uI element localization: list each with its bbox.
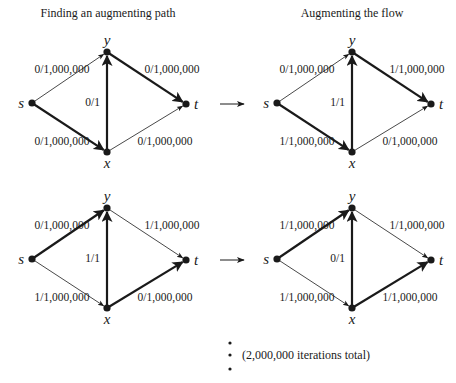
node-s xyxy=(28,255,35,262)
edge-yt-augmenting xyxy=(107,52,183,102)
node-label-s: s xyxy=(18,95,24,111)
title-augmenting-flow: Augmenting the flow xyxy=(301,6,404,20)
node-label-y: y xyxy=(347,32,356,48)
flow-diagram-bottom-right: 1/1,000,0001/1,000,0000/11/1,000,0001/1,… xyxy=(263,188,445,327)
node-label-x: x xyxy=(348,155,356,171)
node-label-x: x xyxy=(348,311,356,327)
edge-label-xy: 0/1 xyxy=(85,96,100,108)
node-label-t: t xyxy=(194,252,199,268)
node-t xyxy=(427,256,434,263)
node-label-y: y xyxy=(102,188,111,204)
edge-label-sy: 0/1,000,000 xyxy=(35,219,90,232)
iterations-note: (2,000,000 iterations total) xyxy=(242,348,370,362)
node-label-t: t xyxy=(194,96,199,112)
ellipsis-dot-3 xyxy=(228,367,231,370)
edge-label-yt: 1/1,000,000 xyxy=(145,219,200,232)
node-label-x: x xyxy=(103,155,111,171)
ellipsis-dot-2 xyxy=(228,353,231,356)
flow-diagram-top-left: 0/1,000,0000/1,000,0000/10/1,000,0000/1,… xyxy=(18,32,200,171)
edge-label-sy: 1/1,000,000 xyxy=(280,219,335,232)
edge-label-xt: 1/1,000,000 xyxy=(383,291,438,304)
edge-label-yt: 1/1,000,000 xyxy=(390,63,445,76)
edge-label-sy: 0/1,000,000 xyxy=(280,63,335,76)
edge-yt-augmenting xyxy=(352,52,428,102)
node-label-x: x xyxy=(103,311,111,327)
edge-label-yt: 1/1,000,000 xyxy=(390,219,445,232)
node-t xyxy=(182,100,189,107)
ellipsis-dot-1 xyxy=(228,341,231,344)
node-label-y: y xyxy=(347,188,356,204)
node-y xyxy=(103,48,110,55)
edge-label-xt: 0/1,000,000 xyxy=(383,135,438,148)
edge-label-sx: 0/1,000,000 xyxy=(35,135,90,148)
node-label-t: t xyxy=(439,96,444,112)
edge-label-yt: 0/1,000,000 xyxy=(145,63,200,76)
edge-label-sx: 1/1,000,000 xyxy=(280,135,335,148)
node-t xyxy=(427,100,434,107)
node-s xyxy=(28,99,35,106)
flow-diagram-top-right: 0/1,000,0001/1,000,0001/11/1,000,0000/1,… xyxy=(263,32,445,171)
edge-label-xy: 1/1 xyxy=(330,96,345,108)
edge-label-xt: 0/1,000,000 xyxy=(138,135,193,148)
node-s xyxy=(273,255,280,262)
edge-label-xt: 0/1,000,000 xyxy=(138,291,193,304)
node-t xyxy=(182,256,189,263)
flow-diagrams: 0/1,000,0000/1,000,0000/10/1,000,0000/1,… xyxy=(18,32,445,327)
flow-diagram-bottom-left: 0/1,000,0001/1,000,0001/11/1,000,0000/1,… xyxy=(18,188,200,327)
node-label-s: s xyxy=(18,251,24,267)
node-label-s: s xyxy=(263,95,269,111)
title-finding-path: Finding an augmenting path xyxy=(41,6,176,20)
augmenting-path-figure: Finding an augmenting path Augmenting th… xyxy=(0,0,456,383)
node-label-y: y xyxy=(102,32,111,48)
edge-yt xyxy=(352,208,428,258)
edge-label-xy: 0/1 xyxy=(330,252,345,264)
edge-label-sx: 1/1,000,000 xyxy=(35,291,90,304)
node-label-t: t xyxy=(439,252,444,268)
node-y xyxy=(348,204,355,211)
edge-label-xy: 1/1 xyxy=(85,252,100,264)
node-label-s: s xyxy=(263,251,269,267)
node-y xyxy=(103,204,110,211)
node-y xyxy=(348,48,355,55)
edge-label-sy: 0/1,000,000 xyxy=(35,63,90,76)
node-s xyxy=(273,99,280,106)
edge-yt xyxy=(107,208,183,258)
edge-label-sx: 1/1,000,000 xyxy=(280,291,335,304)
